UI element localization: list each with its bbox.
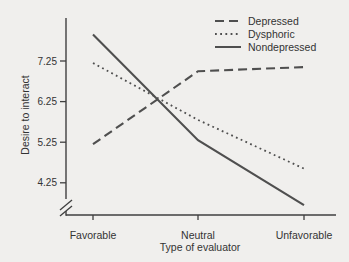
y-tick-label: 7.25 <box>38 56 58 67</box>
axis-break-icon <box>60 200 72 210</box>
x-tick-label: Unfavorable <box>276 229 333 241</box>
series-lines <box>93 35 304 206</box>
y-tick-label: 5.25 <box>38 137 58 148</box>
series-line-depressed <box>93 67 304 144</box>
y-tick-labels: 7.256.255.254.25 <box>38 56 58 189</box>
dashed-line-sample-icon <box>215 17 241 25</box>
y-tick-label: 4.25 <box>38 177 58 188</box>
legend-label: Dysphoric <box>248 28 295 40</box>
x-tick-label: Neutral <box>181 229 215 241</box>
legend: DepressedDysphoricNondepressed <box>215 14 316 53</box>
legend-row-dysphoric: Dysphoric <box>215 27 316 40</box>
legend-row-nondepressed: Nondepressed <box>215 40 316 53</box>
dotted-line-sample-icon <box>215 30 241 38</box>
figure-line-chart: 7.256.255.254.25 FavorableNeutralUnfavor… <box>0 0 349 262</box>
y-tick-label: 6.25 <box>38 96 58 107</box>
x-tick-labels: FavorableNeutralUnfavorable <box>70 229 333 241</box>
legend-row-depressed: Depressed <box>215 14 316 27</box>
legend-label: Nondepressed <box>248 41 316 53</box>
x-axis-title: Type of evaluator <box>110 241 290 253</box>
solid-line-sample-icon <box>215 43 241 51</box>
legend-label: Depressed <box>248 15 299 27</box>
x-tick-label: Favorable <box>70 229 117 241</box>
y-axis-title: Desire to interact <box>19 34 33 196</box>
series-line-dysphoric <box>93 63 304 169</box>
